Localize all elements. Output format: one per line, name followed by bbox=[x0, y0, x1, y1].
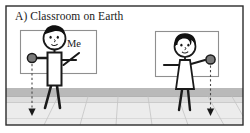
panel-title: A) Classroom on Earth bbox=[15, 10, 123, 22]
floor-near-band bbox=[6, 102, 243, 125]
floor-group bbox=[6, 88, 243, 125]
right-person-eye-right bbox=[187, 44, 189, 47]
left-person-eye-right bbox=[57, 36, 59, 39]
right-person-ball bbox=[206, 55, 215, 64]
right-person-eye-left bbox=[180, 44, 182, 47]
left-person-torso bbox=[48, 53, 62, 86]
left-person-eye-left bbox=[50, 36, 52, 39]
me-annotation-label: Me bbox=[67, 38, 81, 49]
floor-horizon-band bbox=[6, 88, 243, 96]
classroom-on-earth-figure: A) Classroom on Earth Me bbox=[0, 0, 250, 133]
floor-mid-band bbox=[6, 96, 243, 102]
left-person-ball bbox=[27, 53, 36, 62]
